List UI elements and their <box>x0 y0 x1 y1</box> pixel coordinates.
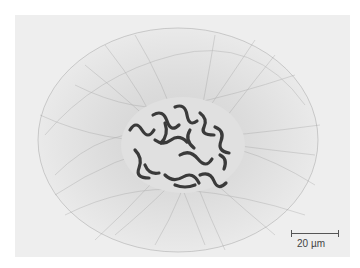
scale-bar-tick-right <box>338 230 339 237</box>
micrograph <box>15 15 350 257</box>
scale-bar-label: 20 µm <box>297 238 325 249</box>
scale-bar-line <box>291 233 339 234</box>
cell-illustration <box>15 15 350 257</box>
scale-bar-tick-left <box>291 230 292 237</box>
scale-bar: 20 µm <box>291 230 339 250</box>
